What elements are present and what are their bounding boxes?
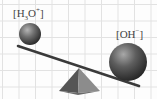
diagram-canvas: [H3O+] [OH−] <box>0 0 157 99</box>
oh-label: [OH−] <box>116 28 143 40</box>
h3o-label: [H3O+] <box>13 7 44 19</box>
oh-ball <box>109 43 147 81</box>
h3o-ball <box>19 23 41 45</box>
